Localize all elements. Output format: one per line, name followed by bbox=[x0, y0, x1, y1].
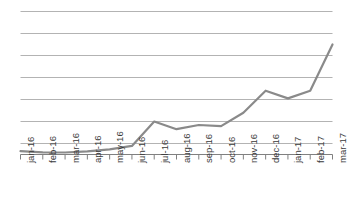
x-axis bbox=[21, 155, 333, 160]
chart-plot-area bbox=[0, 0, 360, 212]
data-series bbox=[21, 45, 333, 153]
gridlines bbox=[21, 12, 333, 144]
line-chart: jan-16feb-16mar-16apr-16may-16jun-16jul-… bbox=[0, 0, 360, 212]
series-line bbox=[21, 45, 333, 153]
